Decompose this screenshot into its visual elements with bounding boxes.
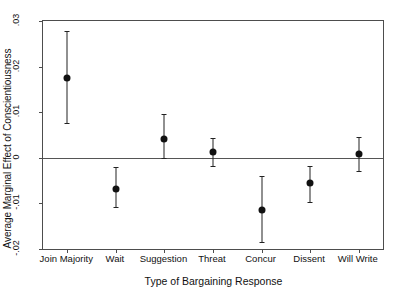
x-axis-tick-label: Suggestion	[140, 253, 188, 265]
x-axis-tick-label: Concur	[245, 253, 276, 265]
data-point-marker	[161, 135, 168, 142]
chart-figure: Average Marginal Effect of Conscientious…	[0, 0, 397, 297]
data-point-marker	[64, 75, 71, 82]
x-axis-tick-label: Dissent	[293, 253, 325, 265]
y-axis-tick-label: .03	[11, 0, 21, 40]
x-axis-title: Type of Bargaining Response	[42, 275, 385, 288]
y-axis-tick-label: .01	[11, 91, 21, 131]
error-bar-cap	[356, 171, 361, 172]
y-axis-tick-label: 0	[11, 137, 21, 177]
plot-inner	[43, 21, 383, 249]
error-bar-cap	[162, 114, 167, 115]
error-bar-cap	[356, 137, 361, 138]
plot-area	[42, 20, 384, 250]
x-axis-tick-label: Join Majority	[40, 253, 93, 265]
error-bar-cap	[259, 176, 264, 177]
x-axis-tick-label: Will Write	[338, 253, 378, 265]
data-point-marker	[355, 151, 362, 158]
x-axis-tick-label: Threat	[198, 253, 225, 265]
data-point-marker	[210, 149, 217, 156]
data-point-marker	[307, 179, 314, 186]
y-axis-tick-label: .02	[11, 46, 21, 86]
error-bar-cap	[65, 31, 70, 32]
error-bar-cap	[113, 207, 118, 208]
error-bar-cap	[211, 166, 216, 167]
data-point-marker	[258, 206, 265, 213]
y-axis-tick	[39, 67, 43, 68]
y-axis-tick	[39, 21, 43, 22]
error-bar-cap	[308, 202, 313, 203]
y-axis-tick-label: -.02	[11, 228, 21, 268]
error-bar-cap	[65, 123, 70, 124]
y-axis-tick	[39, 112, 43, 113]
error-bar-cap	[162, 158, 167, 159]
error-bar-cap	[211, 138, 216, 139]
y-axis-tick-label: -.01	[11, 182, 21, 222]
error-bar-cap	[113, 167, 118, 168]
error-bar-cap	[308, 166, 313, 167]
error-bar-cap	[259, 242, 264, 243]
x-axis-tick-label: Wait	[106, 253, 125, 265]
data-point-marker	[112, 186, 119, 193]
y-axis-tick	[39, 203, 43, 204]
y-axis-tick	[39, 249, 43, 250]
